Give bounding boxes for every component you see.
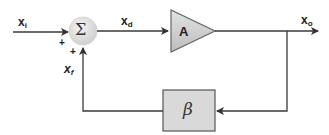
feedback-signal-label: xf — [64, 63, 73, 77]
output-signal-label: xo — [301, 14, 313, 28]
amplifier-label: A — [179, 25, 188, 38]
plus-sign-feedback: + — [70, 47, 76, 57]
feedback-path-right — [217, 31, 287, 111]
input-signal-label: xi — [18, 16, 27, 30]
plus-sign-input: + — [59, 38, 65, 48]
amplifier-block — [171, 10, 215, 52]
difference-signal-label: xd — [121, 15, 133, 29]
feedback-path-left — [83, 48, 163, 111]
sigma-symbol: Σ — [75, 22, 86, 38]
feedback-diagram — [0, 0, 329, 135]
beta-label: β — [183, 101, 193, 118]
